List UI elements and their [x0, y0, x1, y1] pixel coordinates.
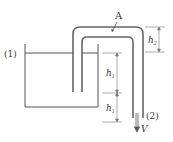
h1-lower-label: h1: [106, 103, 115, 114]
h1-upper-label: h1: [106, 68, 115, 79]
point-2-label: (2): [146, 111, 159, 121]
point-1-label: (1): [4, 49, 17, 59]
velocity-arrow-icon: [135, 113, 140, 132]
h2-label: h2: [148, 35, 157, 46]
siphon-diagram: A (1) (2) V h1 h1 h2: [0, 0, 173, 142]
velocity-label: V: [141, 124, 149, 134]
tank: [25, 44, 98, 107]
point-a-label: A: [114, 10, 123, 21]
